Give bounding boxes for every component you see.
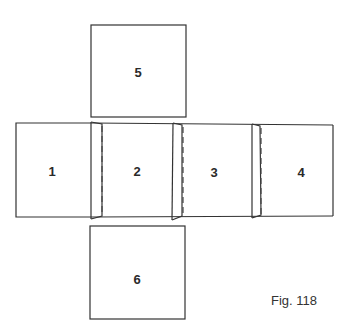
tab-flap-2 bbox=[91, 122, 102, 219]
strip-bottom-edge bbox=[91, 216, 333, 217]
face-4-label: 4 bbox=[297, 165, 304, 180]
face-3-label: 3 bbox=[210, 165, 217, 180]
tab-flap-4 bbox=[252, 124, 261, 218]
face-5-label: 5 bbox=[134, 65, 141, 80]
tab-flap-3 bbox=[172, 123, 182, 220]
face-6-label: 6 bbox=[133, 272, 140, 287]
face-2-label: 2 bbox=[133, 164, 140, 179]
face-1-label: 1 bbox=[48, 164, 55, 179]
strip-top-edge bbox=[91, 123, 333, 125]
fold-line-2-3 bbox=[172, 123, 173, 220]
figure-caption: Fig. 118 bbox=[271, 293, 317, 308]
